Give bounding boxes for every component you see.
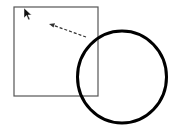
dashed-arrow (49, 23, 86, 37)
diagram-canvas (0, 0, 176, 130)
mouse-pointer-icon (24, 8, 32, 20)
arrowhead-icon (49, 23, 55, 27)
circle-shape (78, 31, 167, 123)
